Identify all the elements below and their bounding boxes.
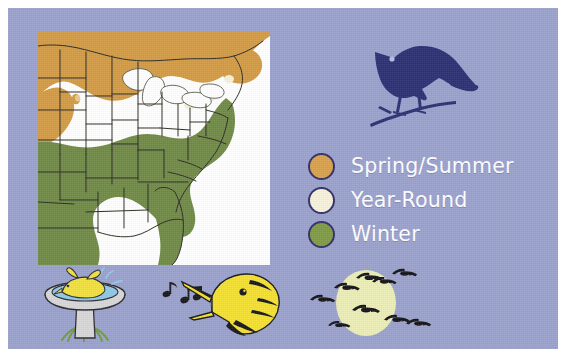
- legend-swatch-spring-summer: [308, 153, 335, 180]
- singing-bird-shape: [182, 274, 279, 336]
- perched-bird-silhouette: [364, 30, 480, 130]
- range-map: [38, 32, 270, 265]
- legend-label-year-round: Year-Round: [351, 188, 467, 212]
- range-legend: Spring/Summer Year-Round Winter: [308, 150, 548, 252]
- geese-flying-past-moon: [304, 262, 436, 344]
- legend-item-winter: Winter: [308, 218, 548, 250]
- figure-root: Spring/Summer Year-Round Winter: [0, 0, 566, 357]
- illustration-panel: Spring/Summer Year-Round Winter: [8, 8, 558, 349]
- legend-item-spring-summer: Spring/Summer: [308, 150, 548, 182]
- legend-item-year-round: Year-Round: [308, 184, 548, 216]
- legend-label-winter: Winter: [351, 222, 420, 246]
- bird-in-birdbath: [32, 266, 138, 342]
- range-map-svg: [38, 32, 270, 265]
- legend-label-spring-summer: Spring/Summer: [351, 154, 514, 178]
- legend-swatch-winter: [308, 221, 335, 248]
- singing-bird-head: [160, 270, 288, 342]
- perched-bird-body: [370, 46, 478, 127]
- birdbath-splash: [100, 268, 122, 284]
- perched-bird-eye: [389, 56, 394, 61]
- legend-swatch-year-round: [308, 187, 335, 214]
